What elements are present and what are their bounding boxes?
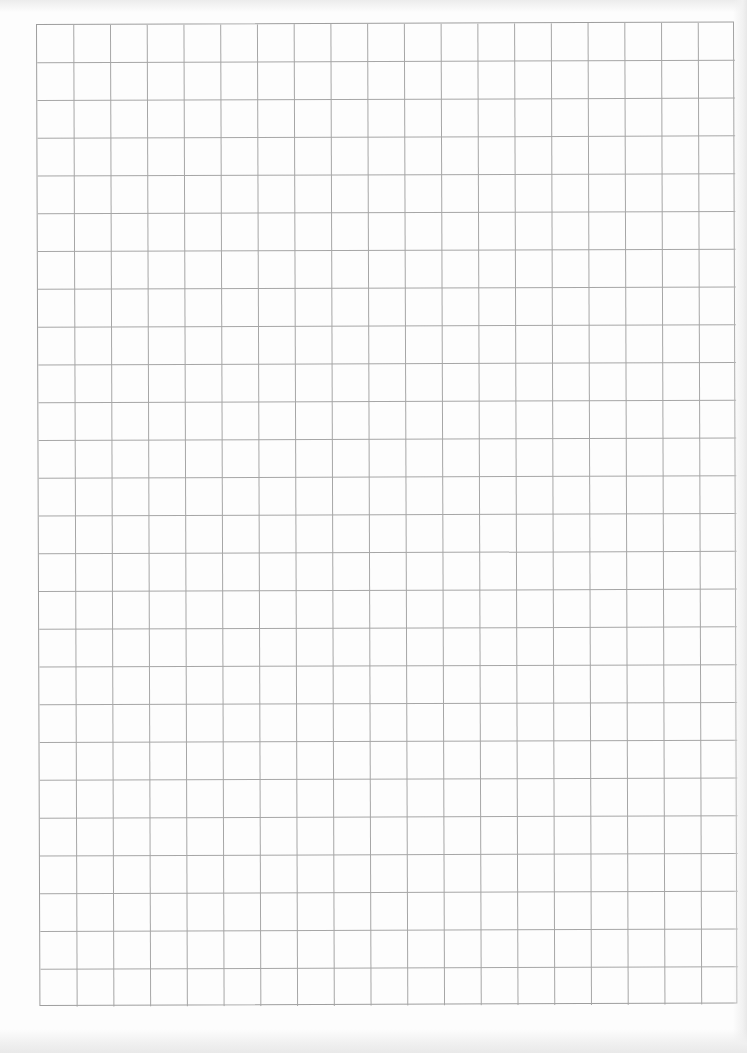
scan-shadow-right [733, 0, 747, 1053]
grid-row-line [37, 98, 735, 100]
grid-paper-sheet [36, 22, 737, 1006]
grid-row-line [39, 589, 737, 591]
grid-row-line [40, 816, 738, 818]
grid-row-line [39, 514, 737, 516]
grid-row-line [38, 362, 736, 364]
scan-shadow-top [0, 0, 747, 12]
grid-row-line [38, 211, 736, 213]
grid-row-line [38, 287, 736, 289]
grid-row-line [38, 438, 736, 440]
grid-row-line [40, 778, 738, 780]
grid-row-line [39, 551, 737, 553]
grid-row-line [39, 665, 737, 667]
grid-row-line [39, 476, 737, 478]
grid-row-line [38, 249, 736, 251]
grid-row-line [37, 136, 735, 138]
grid-row-line [38, 325, 736, 327]
grid-row-line [39, 702, 737, 704]
grid-row-line [38, 400, 736, 402]
grid-row-line [40, 891, 738, 893]
grid-row-line [40, 967, 738, 969]
grid-row-line [40, 853, 738, 855]
grid-row-line [38, 174, 736, 176]
grid-lines [37, 23, 738, 1007]
grid-row-line [40, 740, 738, 742]
grid-row-line [40, 929, 738, 931]
scan-shadow-bottom [0, 1029, 747, 1053]
grid-row-line [39, 627, 737, 629]
grid-row-line [37, 60, 735, 62]
